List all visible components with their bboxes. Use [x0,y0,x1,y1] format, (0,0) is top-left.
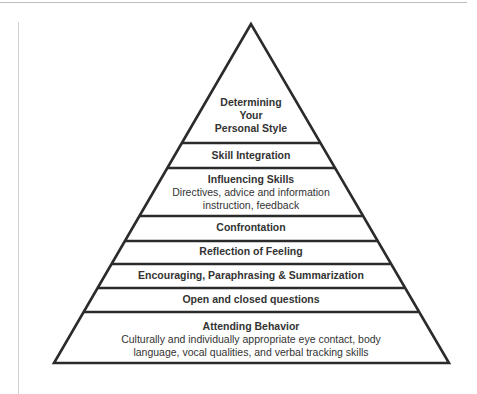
level-personal-style: Determining Your Personal Style [215,96,287,135]
level-description-line: language, vocal qualities, and verbal tr… [121,346,381,359]
level-confrontation: Confrontation [216,221,285,234]
level-attending-behavior: Attending Behavior Culturally and indivi… [121,320,381,359]
level-title: Open and closed questions [182,293,319,306]
level-title: Attending Behavior [121,320,381,333]
level-influencing-skills: Influencing Skills Directives, advice an… [172,173,330,212]
level-title: Confrontation [216,221,285,234]
level-title-line: Personal Style [215,122,287,135]
level-title-line: Your [215,109,287,122]
level-description-line: instruction, feedback [172,199,330,212]
level-open-closed-questions: Open and closed questions [182,293,319,306]
level-title: Influencing Skills [172,173,330,186]
level-skill-integration: Skill Integration [212,149,291,162]
level-description-line: Directives, advice and information [172,186,330,199]
level-description-line: Culturally and individually appropriate … [121,333,381,346]
level-reflection-of-feeling: Reflection of Feeling [199,245,302,258]
level-title: Reflection of Feeling [199,245,302,258]
level-title: Skill Integration [212,149,291,162]
level-title: Encouraging, Paraphrasing & Summarizatio… [138,269,364,282]
level-encouraging: Encouraging, Paraphrasing & Summarizatio… [138,269,364,282]
level-title-line: Determining [215,96,287,109]
